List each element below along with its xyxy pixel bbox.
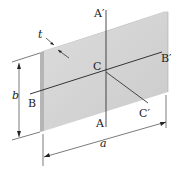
label-b-axis: B xyxy=(28,97,36,110)
label-c: C xyxy=(93,60,101,73)
label-height-b: b xyxy=(12,89,19,102)
label-a: A xyxy=(95,117,105,130)
dim-b-ext-top xyxy=(12,53,40,62)
label-c-prime: C′ xyxy=(139,107,150,120)
plate-diagram: A′ A B′ B C C′ t b a xyxy=(0,0,184,174)
label-thickness: t xyxy=(38,28,43,41)
label-a-prime: A′ xyxy=(93,7,105,20)
label-b-prime: B′ xyxy=(161,52,172,65)
plate-left-edge xyxy=(40,51,44,132)
dim-b-ext-bottom xyxy=(12,132,40,140)
label-width-a: a xyxy=(100,137,107,150)
